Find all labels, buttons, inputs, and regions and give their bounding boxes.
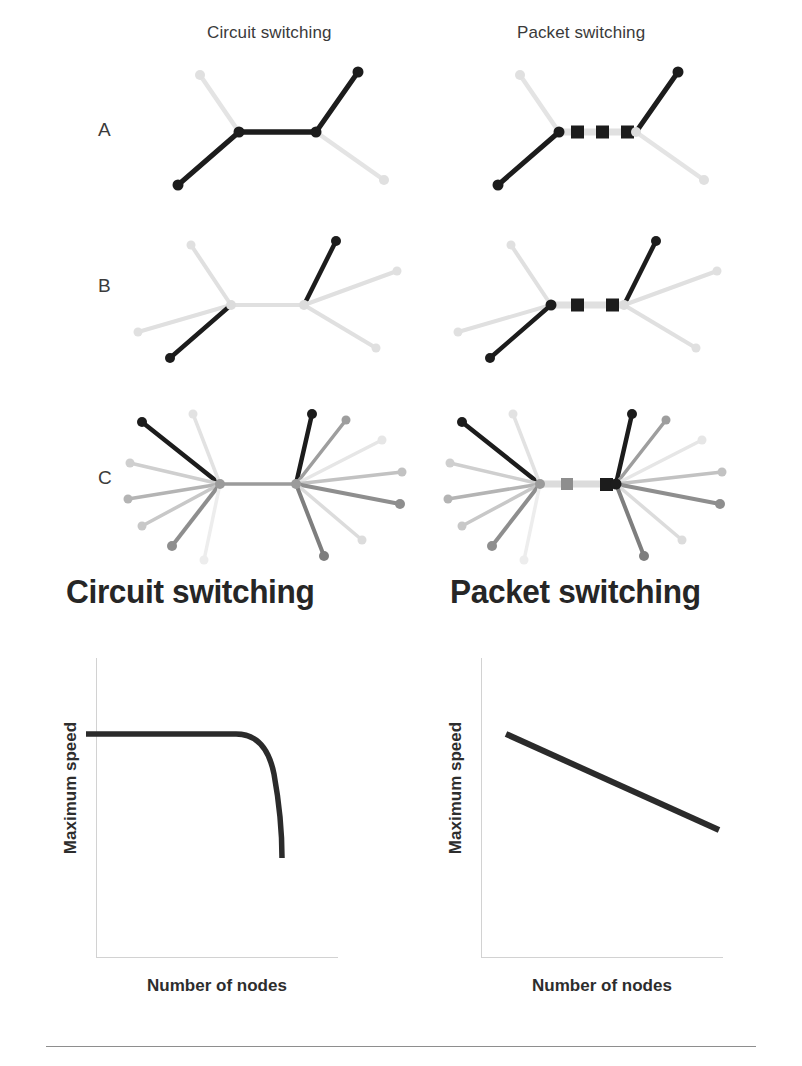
chart-y-axis-label: Maximum speed [61, 688, 81, 888]
link-active [498, 132, 559, 185]
node-idle [200, 556, 209, 565]
link-idle [191, 245, 231, 305]
network-diagram-b-circuit-switching [118, 228, 418, 378]
packet-block [596, 126, 609, 139]
column-header-circuit-switching: Circuit switching [207, 22, 332, 44]
hub-node [619, 300, 629, 310]
section-title-circuit-switching: Circuit switching [66, 570, 314, 612]
node-idle [515, 70, 525, 80]
link-idle [304, 305, 376, 348]
hub-node [554, 127, 565, 138]
node-idle [678, 536, 687, 545]
link-idle [636, 132, 704, 180]
hub-node [611, 479, 622, 490]
node-active [457, 417, 467, 427]
column-header-packet-switching: Packet switching [517, 22, 645, 44]
node-idle [124, 495, 133, 504]
network-diagram-b-packet-switching [438, 228, 738, 378]
hub-node [311, 127, 322, 138]
node-active [353, 67, 364, 78]
hub-node [215, 479, 225, 489]
node-idle [509, 410, 518, 419]
node-active [493, 180, 504, 191]
node-idle [395, 499, 405, 509]
node-active [627, 409, 637, 419]
hub-node [631, 127, 641, 137]
node-active [673, 67, 684, 78]
chart-y-axis-label: Maximum speed [446, 688, 466, 888]
link-idle [316, 132, 384, 180]
hub-node [226, 300, 236, 310]
node-active [331, 236, 341, 246]
node-idle [639, 551, 649, 561]
node-idle [487, 541, 497, 551]
data-line-maximum-speed [86, 734, 282, 858]
chart-x-axis-label: Number of nodes [96, 976, 338, 996]
node-idle [319, 551, 329, 561]
link-idle [624, 305, 696, 348]
link-active [636, 72, 678, 132]
network-diagram-a-packet-switching [438, 52, 728, 212]
link-idle [511, 245, 551, 305]
node-idle [372, 344, 381, 353]
link-idle [296, 472, 402, 484]
node-idle [126, 459, 135, 468]
node-idle [662, 416, 671, 425]
link-idle [520, 75, 559, 132]
hub-node [299, 300, 309, 310]
network-diagram-c-packet-switching [420, 398, 740, 568]
packet-block [561, 478, 573, 490]
node-idle [393, 267, 402, 276]
chart-packet-switching: Maximum speed Number of nodes [425, 658, 755, 958]
link-idle [296, 484, 400, 504]
node-idle [379, 175, 389, 185]
node-idle [713, 267, 722, 276]
node-idle [167, 541, 177, 551]
node-idle [692, 344, 701, 353]
network-diagram-c-circuit-switching [100, 398, 420, 568]
hub-node [234, 127, 245, 138]
chart-plot-area [425, 658, 755, 958]
row-label-b: B [98, 276, 111, 296]
node-active [173, 180, 184, 191]
node-idle [699, 175, 709, 185]
node-idle [195, 70, 205, 80]
node-idle [507, 241, 516, 250]
node-active [137, 417, 147, 427]
figure-canvas: Circuit switching Packet switching A B C [0, 0, 802, 1066]
link-idle [616, 472, 722, 484]
footer-divider [46, 1046, 756, 1047]
link-idle [616, 484, 720, 504]
data-line-maximum-speed [506, 734, 719, 830]
node-idle [187, 241, 196, 250]
link-idle [200, 75, 239, 132]
node-active [651, 236, 661, 246]
packet-group [571, 126, 634, 139]
node-active [485, 353, 495, 363]
node-idle [358, 536, 367, 545]
chart-plot-area [40, 658, 370, 958]
node-active [307, 409, 317, 419]
node-idle [718, 468, 727, 477]
node-idle [520, 556, 529, 565]
network-diagram-a-circuit-switching [118, 52, 408, 212]
node-idle [134, 328, 143, 337]
chart-circuit-switching: Maximum speed Number of nodes [40, 658, 370, 958]
node-idle [378, 436, 387, 445]
node-idle [715, 499, 725, 509]
node-idle [189, 410, 198, 419]
row-label-a: A [98, 120, 111, 140]
chart-x-axis-label: Number of nodes [481, 976, 723, 996]
link-active [316, 72, 358, 132]
node-idle [454, 328, 463, 337]
node-idle [398, 468, 407, 477]
node-idle [458, 522, 467, 531]
link-active [178, 132, 239, 185]
section-title-packet-switching: Packet switching [450, 570, 701, 612]
hub-node [546, 300, 557, 311]
node-idle [446, 459, 455, 468]
node-idle [698, 436, 707, 445]
node-idle [342, 416, 351, 425]
packet-block [571, 126, 584, 139]
packet-block [571, 299, 584, 312]
